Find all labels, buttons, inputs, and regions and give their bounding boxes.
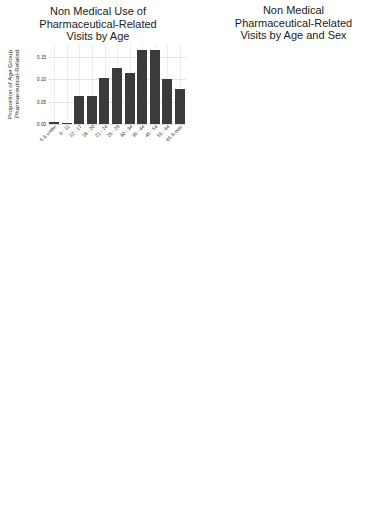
x-tick-label: 5 & under	[39, 124, 58, 143]
x-tick-label: 25 - 29	[106, 124, 120, 138]
bar	[112, 68, 122, 124]
x-tick-label: 30 - 34	[119, 124, 133, 138]
bar	[162, 79, 172, 124]
gridline-vertical	[54, 44, 55, 124]
x-tick-label: 45 - 54	[144, 124, 158, 138]
panel-title: Non Medical Use ofPharmaceutical-Related…	[0, 5, 196, 43]
y-tick-label: 0.10	[37, 77, 46, 82]
gridline-vertical	[67, 44, 68, 124]
bar	[175, 89, 185, 124]
y-tick-label: 0.15	[37, 54, 46, 59]
y-tick-label: 0.00	[37, 122, 46, 127]
x-tick-label: 35 - 44	[131, 124, 145, 138]
y-tick-label: 0.05	[37, 99, 46, 104]
panel-top-right: Non MedicalPharmaceutical-RelatedVisits …	[196, 0, 391, 165]
panel-bottom-right: Opiate-Related Visitsby Age and Sex Prop…	[196, 330, 391, 519]
panel-middle-right: Antidepressant-RelatedVisits by Age and …	[196, 165, 391, 330]
bar	[137, 50, 147, 124]
panel-middle-left: Antidepressant-RelatedVisits by Age Prop…	[0, 165, 196, 330]
bar	[99, 78, 109, 124]
bar	[74, 96, 84, 124]
x-tick-label: 21 - 24	[94, 124, 108, 138]
bar	[87, 96, 97, 124]
panel-title: Non MedicalPharmaceutical-RelatedVisits …	[196, 4, 391, 42]
bar	[150, 50, 160, 124]
plot-area: 0.000.050.100.155 & under6 - 1112 - 1718…	[48, 44, 186, 124]
panel-bottom-left: Opiate-RelatedVisits by Age Proportion o…	[0, 330, 196, 519]
y-axis-label: Proportion of Age Group Pharmaceutical-R…	[6, 40, 20, 128]
x-tick-label: 12 - 17	[69, 124, 83, 138]
figure-grid: Non Medical Use ofPharmaceutical-Related…	[0, 0, 391, 519]
x-tick-label: 18 - 20	[81, 124, 95, 138]
panel-top-left: Non Medical Use ofPharmaceutical-Related…	[0, 0, 196, 165]
bar	[125, 73, 135, 124]
